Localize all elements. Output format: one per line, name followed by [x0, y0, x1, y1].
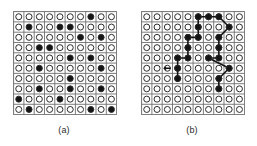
cell-node-empty: [67, 45, 73, 51]
cell-node-empty: [36, 24, 42, 30]
cell-node-empty: [88, 86, 94, 92]
cell-node-empty: [98, 24, 104, 30]
cell-node-empty: [78, 14, 84, 20]
cell-node-empty: [47, 55, 53, 61]
cell-node-empty: [98, 96, 104, 102]
cell-node-empty: [36, 34, 42, 40]
cell-node-empty: [164, 86, 170, 92]
cell-node-empty: [88, 24, 94, 30]
cell-node-empty: [108, 24, 114, 30]
cell-node-empty: [78, 96, 84, 102]
cell-node-filled: [67, 86, 73, 92]
cell-node-empty: [206, 76, 212, 82]
cell-node-empty: [98, 76, 104, 82]
path-node: [226, 65, 232, 71]
path-node: [206, 14, 212, 20]
caption-a: (a): [0, 124, 128, 136]
cell-node-empty: [67, 14, 73, 20]
cell-node-empty: [175, 96, 181, 102]
cell-node-empty: [144, 76, 150, 82]
cell-node-empty: [57, 45, 63, 51]
cell-node-empty: [154, 65, 160, 71]
cell-node-empty: [236, 45, 242, 51]
cell-node-empty: [154, 14, 160, 20]
cell-node-filled: [88, 14, 94, 20]
cell-node-empty: [67, 65, 73, 71]
cell-node-empty: [195, 76, 201, 82]
cell-node-empty: [236, 24, 242, 30]
cell-node-empty: [78, 55, 84, 61]
cell-node-empty: [236, 55, 242, 61]
cell-node-empty: [26, 14, 32, 20]
cell-node-empty: [16, 76, 22, 82]
cell-node-empty: [154, 45, 160, 51]
cell-node-empty: [88, 96, 94, 102]
cell-node-empty: [144, 34, 150, 40]
path-node: [216, 76, 222, 82]
cell-node-empty: [78, 76, 84, 82]
cell-node-empty: [78, 24, 84, 30]
cell-node-empty: [57, 86, 63, 92]
grid-b-svg: [141, 11, 245, 115]
cell-node-empty: [88, 76, 94, 82]
cell-node-empty: [108, 76, 114, 82]
cell-node-empty: [98, 45, 104, 51]
cell-node-empty: [36, 76, 42, 82]
cell-node-empty: [144, 65, 150, 71]
path-node: [216, 45, 222, 51]
cell-node-empty: [26, 34, 32, 40]
cell-node-empty: [154, 34, 160, 40]
cell-node-empty: [26, 76, 32, 82]
cell-node-empty: [185, 76, 191, 82]
path-node: [175, 76, 181, 82]
cell-node-filled: [108, 106, 114, 112]
cell-node-empty: [57, 14, 63, 20]
cell-node-empty: [175, 86, 181, 92]
cell-node-empty: [36, 96, 42, 102]
cell-node-empty: [47, 14, 53, 20]
path-node: [216, 55, 222, 61]
cell-node-empty: [195, 65, 201, 71]
cell-node-filled: [67, 76, 73, 82]
cell-node-empty: [26, 65, 32, 71]
cell-node-empty: [236, 76, 242, 82]
cell-node-filled: [47, 45, 53, 51]
cell-node-empty: [195, 96, 201, 102]
cell-node-empty: [98, 14, 104, 20]
path-node: [175, 65, 181, 71]
cell-node-filled: [67, 55, 73, 61]
path-node: [185, 55, 191, 61]
cell-node-empty: [216, 96, 222, 102]
cell-node-empty: [236, 106, 242, 112]
cell-node-empty: [226, 86, 232, 92]
path-node: [175, 55, 181, 61]
cell-node-filled: [98, 34, 104, 40]
cell-node-empty: [98, 106, 104, 112]
cell-node-empty: [47, 106, 53, 112]
cell-node-empty: [16, 106, 22, 112]
cell-node-empty: [67, 34, 73, 40]
cell-node-empty: [144, 45, 150, 51]
cell-node-empty: [226, 96, 232, 102]
cell-node-empty: [185, 106, 191, 112]
cell-node-empty: [108, 96, 114, 102]
path-node: [206, 55, 212, 61]
path-node: [195, 34, 201, 40]
cell-node-empty: [175, 45, 181, 51]
cell-node-empty: [57, 76, 63, 82]
cell-node-empty: [236, 96, 242, 102]
cell-node-empty: [108, 34, 114, 40]
cell-node-empty: [78, 86, 84, 92]
cell-node-empty: [154, 86, 160, 92]
cell-node-empty: [26, 86, 32, 92]
cell-node-filled: [36, 86, 42, 92]
cell-node-empty: [236, 86, 242, 92]
cell-node-empty: [78, 65, 84, 71]
cell-node-empty: [185, 86, 191, 92]
cell-node-empty: [236, 34, 242, 40]
cell-node-filled: [26, 24, 32, 30]
cell-node-empty: [47, 86, 53, 92]
grid-a: [13, 11, 116, 123]
cell-node-empty: [206, 24, 212, 30]
cell-node-empty: [144, 86, 150, 92]
